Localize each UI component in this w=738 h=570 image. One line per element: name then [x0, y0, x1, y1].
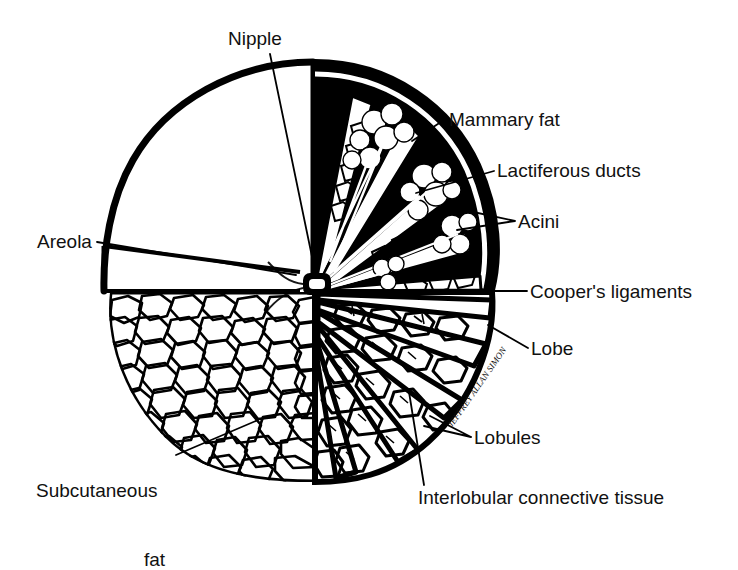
label-subcutaneous-fat-line1: Subcutaneous [36, 479, 165, 502]
label-subcutaneous-fat: Subcutaneous fat [36, 433, 165, 570]
label-mammary-fat: Mammary fat [449, 109, 560, 130]
label-acini: Acini [518, 211, 559, 232]
leader-nipple [270, 54, 316, 276]
label-lactiferous-ducts: Lactiferous ducts [497, 160, 641, 181]
label-areola: Areola [37, 231, 92, 252]
label-nipple: Nipple [228, 28, 282, 49]
label-lobe: Lobe [531, 338, 573, 359]
label-subcutaneous-fat-line2: fat [144, 548, 165, 570]
leader-areola [97, 242, 296, 275]
skin-sector [104, 62, 313, 291]
leader-lobe [488, 325, 528, 348]
mammary-gland-region [315, 62, 497, 296]
label-interlobular-connective-tissue: Interlobular connective tissue [418, 487, 664, 508]
label-coopers-ligaments: Cooper's ligaments [530, 281, 692, 302]
lobes-lobules-region [314, 292, 492, 482]
areola-wedge [104, 246, 300, 291]
label-lobules: Lobules [474, 427, 541, 448]
